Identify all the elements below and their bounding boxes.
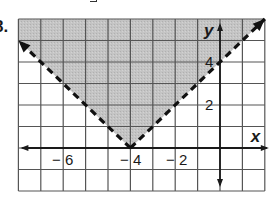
inequality-graph: − 6− 4− 224xy [0,0,276,208]
x-axis-label: x [250,127,262,146]
x-tick-label: − 2 [166,151,187,168]
x-tick-label: − 4 [120,151,141,168]
y-tick-label: 4 [205,53,213,70]
y-axis-down-arrow-icon [217,179,223,187]
x-tick-label: − 6 [52,151,73,168]
y-tick-label: 2 [205,96,213,113]
x-axis-left-arrow-icon [20,145,28,151]
y-axis-label: y [203,21,215,40]
